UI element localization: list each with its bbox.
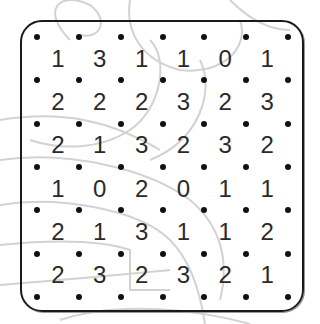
clue-cell[interactable]: 1 — [219, 220, 232, 244]
clue-cell[interactable]: 1 — [51, 177, 64, 201]
grid-dot — [118, 294, 124, 300]
grid-dot — [34, 207, 40, 213]
grid-dot — [201, 121, 207, 127]
clue-cell[interactable]: 2 — [260, 220, 273, 244]
grid-dot — [285, 34, 291, 40]
grid-dot — [118, 251, 124, 257]
grid-dot — [243, 121, 249, 127]
clue-cell[interactable]: 2 — [135, 90, 148, 114]
clue-cell[interactable]: 0 — [93, 177, 106, 201]
grid-dot — [34, 251, 40, 257]
grid-dot — [34, 121, 40, 127]
clue-cell[interactable]: 2 — [51, 133, 64, 157]
clue-cell[interactable]: 1 — [93, 133, 106, 157]
clue-cell[interactable]: 1 — [260, 177, 273, 201]
grid-dot — [201, 34, 207, 40]
grid-dot — [76, 207, 82, 213]
clue-cell[interactable]: 2 — [219, 90, 232, 114]
clue-cell[interactable]: 3 — [135, 133, 148, 157]
grid-dot — [118, 121, 124, 127]
grid-dot — [118, 207, 124, 213]
clue-cell[interactable]: 3 — [177, 90, 190, 114]
grid-dot — [201, 164, 207, 170]
grid-dot — [243, 77, 249, 83]
grid-dot — [118, 77, 124, 83]
grid-dot — [160, 164, 166, 170]
clue-cell[interactable]: 1 — [135, 47, 148, 71]
clue-cell[interactable]: 3 — [93, 263, 106, 287]
grid-dot — [243, 207, 249, 213]
clue-cell[interactable]: 2 — [260, 133, 273, 157]
clue-cell[interactable]: 3 — [260, 90, 273, 114]
grid-dot — [160, 77, 166, 83]
grid-dot — [243, 294, 249, 300]
grid-dot — [160, 34, 166, 40]
grid-dot — [76, 294, 82, 300]
clue-cell[interactable]: 3 — [93, 47, 106, 71]
clue-cell[interactable]: 1 — [219, 177, 232, 201]
grid-dot — [285, 164, 291, 170]
clue-cell[interactable]: 2 — [93, 90, 106, 114]
clue-cell[interactable]: 2 — [135, 263, 148, 287]
grid-dot — [285, 207, 291, 213]
grid-dot — [160, 251, 166, 257]
clue-cell[interactable]: 3 — [219, 133, 232, 157]
grid-dot — [34, 77, 40, 83]
clue-cell[interactable]: 2 — [51, 263, 64, 287]
grid-dot — [160, 294, 166, 300]
clue-cell[interactable]: 0 — [177, 177, 190, 201]
grid-dot — [201, 77, 207, 83]
clue-cell[interactable]: 2 — [51, 220, 64, 244]
clue-cell[interactable]: 2 — [177, 133, 190, 157]
grid-dot — [76, 121, 82, 127]
clue-cell[interactable]: 1 — [93, 220, 106, 244]
clue-cell[interactable]: 1 — [177, 47, 190, 71]
grid-dot — [34, 294, 40, 300]
clue-cell[interactable]: 2 — [219, 263, 232, 287]
grid-dot — [285, 77, 291, 83]
grid-dot — [285, 121, 291, 127]
clue-cell[interactable]: 2 — [51, 90, 64, 114]
grid-dot — [76, 34, 82, 40]
grid-dot — [160, 121, 166, 127]
grid-dot — [118, 164, 124, 170]
clue-cell[interactable]: 3 — [177, 263, 190, 287]
grid-dot — [285, 251, 291, 257]
grid-dot — [243, 34, 249, 40]
clue-cell[interactable]: 1 — [177, 220, 190, 244]
grid-dot — [34, 164, 40, 170]
grid-dot — [243, 251, 249, 257]
clue-cell[interactable]: 1 — [260, 263, 273, 287]
grid-dot — [243, 164, 249, 170]
clue-cell[interactable]: 1 — [51, 47, 64, 71]
grid-dot — [76, 251, 82, 257]
grid-dot — [76, 77, 82, 83]
clue-cell[interactable]: 0 — [219, 47, 232, 71]
grid-dot — [118, 34, 124, 40]
clue-cell[interactable]: 2 — [135, 177, 148, 201]
grid-dot — [201, 294, 207, 300]
clue-cell[interactable]: 3 — [135, 220, 148, 244]
grid-dot — [201, 207, 207, 213]
grid-dot — [34, 34, 40, 40]
grid-dot — [76, 164, 82, 170]
grid-dot — [160, 207, 166, 213]
grid-dot — [201, 251, 207, 257]
clue-cell[interactable]: 1 — [260, 47, 273, 71]
grid-dot — [285, 294, 291, 300]
